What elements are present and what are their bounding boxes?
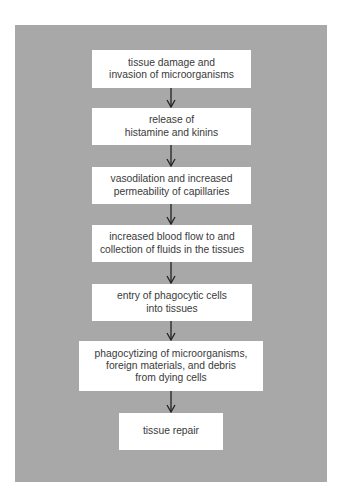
step-label: increased blood flow to and collection o…: [100, 231, 244, 255]
step-box-blood-flow: increased blood flow to and collection o…: [92, 225, 252, 262]
arrow-down-icon: [164, 262, 178, 284]
step-label: tissue repair: [143, 425, 199, 437]
arrow-down-icon: [164, 391, 178, 413]
step-label: tissue damage and invasion of microorgan…: [109, 57, 234, 81]
step-label: vasodilation and increased permeability …: [111, 173, 233, 197]
step-box-phagocyte-entry: entry of phagocytic cells into tissues: [92, 284, 252, 321]
step-box-phagocytizing: phagocytizing of microorganisms, foreign…: [79, 341, 263, 391]
step-box-histamine-release: release of histamine and kinins: [92, 108, 251, 145]
step-box-tissue-repair: tissue repair: [119, 413, 223, 450]
step-box-tissue-damage: tissue damage and invasion of microorgan…: [92, 50, 251, 88]
step-label: release of histamine and kinins: [125, 114, 218, 138]
arrow-down-icon: [164, 321, 178, 341]
step-label: entry of phagocytic cells into tissues: [117, 290, 227, 314]
arrow-down-icon: [164, 204, 178, 225]
arrow-down-icon: [164, 88, 178, 108]
arrow-down-icon: [164, 145, 178, 167]
step-label: phagocytizing of microorganisms, foreign…: [95, 348, 248, 385]
step-box-vasodilation: vasodilation and increased permeability …: [92, 167, 251, 204]
